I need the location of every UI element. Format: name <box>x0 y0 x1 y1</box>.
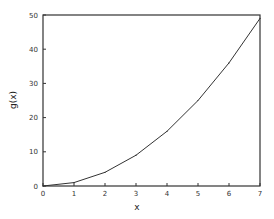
series-group <box>42 18 260 187</box>
y-tick-label: 30 <box>29 80 38 88</box>
x-tick-label: 4 <box>165 190 170 198</box>
data-point <box>42 185 43 186</box>
y-tick-label: 20 <box>29 114 38 122</box>
x-tick-label: 3 <box>134 190 138 198</box>
y-tick-label: 0 <box>34 183 38 191</box>
y-tick-label: 40 <box>29 46 38 54</box>
x-tick-label: 2 <box>103 190 107 198</box>
data-point <box>228 62 229 63</box>
data-point <box>73 182 74 183</box>
x-tick-label: 6 <box>227 190 232 198</box>
data-point <box>104 172 105 173</box>
chart: 01234567 01020304050 x g(x) <box>0 0 274 219</box>
x-axis: 01234567 <box>41 183 262 198</box>
series-line-g-x <box>43 18 260 186</box>
x-tick-label: 7 <box>258 190 262 198</box>
y-tick-label: 50 <box>29 12 38 20</box>
data-point <box>135 155 136 156</box>
x-tick-label: 1 <box>72 190 76 198</box>
y-axis-label: g(x) <box>8 91 18 109</box>
y-tick-label: 10 <box>29 148 38 156</box>
data-point <box>197 100 198 101</box>
data-point <box>166 131 167 132</box>
data-point <box>259 18 260 19</box>
x-tick-label: 0 <box>41 190 45 198</box>
x-axis-label: x <box>134 202 140 212</box>
plot-frame <box>43 15 260 186</box>
x-tick-label: 5 <box>196 190 200 198</box>
